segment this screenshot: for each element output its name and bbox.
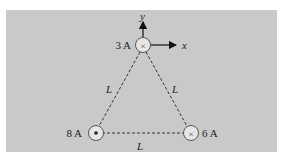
wire-bottom-left-current-label: 8 A: [66, 127, 82, 139]
side-left-line: [98, 52, 140, 128]
side-bottom-label: L: [136, 140, 143, 152]
cross-symbol-icon: ×: [140, 41, 145, 51]
x-axis-label: x: [181, 39, 187, 51]
y-axis-label: y: [139, 10, 145, 22]
wire-bottom-right-current-label: 6 A: [202, 127, 218, 139]
wire-top-current-label: 3 A: [115, 39, 131, 51]
side-right-line: [146, 52, 188, 128]
dot-symbol-icon: [94, 131, 98, 135]
side-right-label: L: [171, 83, 178, 95]
triangle-diagram: y x × 3 A 8 A × 6 A L L L: [0, 0, 281, 160]
cross-symbol-icon: ×: [188, 129, 193, 139]
side-left-label: L: [105, 83, 112, 95]
